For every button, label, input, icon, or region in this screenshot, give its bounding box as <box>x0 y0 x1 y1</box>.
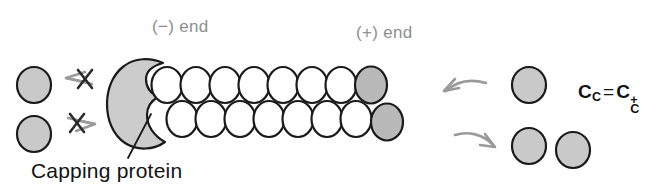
filament-top-row <box>152 67 388 104</box>
left-free-subunit-lower <box>17 116 51 152</box>
equation-rhs-base: C <box>616 81 630 102</box>
filament-subunit-top-4 <box>239 67 270 103</box>
filament-subunit-top-2 <box>181 67 212 103</box>
plus-end-association-arrow <box>444 79 486 91</box>
minus-end-dissociation-blocked-arrow <box>68 114 95 132</box>
filament-subunit-bottom-3 <box>225 101 256 137</box>
plus-end-label: (+) end <box>356 24 412 41</box>
filament-subunit-bottom-5 <box>283 101 314 137</box>
filament-bottom-row <box>167 101 404 141</box>
equation-lhs-base: C <box>578 81 592 102</box>
critical-concentration-equation: CC=C+C <box>578 82 642 101</box>
filament-subunit-top-1 <box>152 67 183 103</box>
filament-subunit-top-7 <box>326 67 357 103</box>
right-free-subunit-lower-inner <box>512 128 546 164</box>
capping-protein-label: Capping protein <box>31 160 182 181</box>
right-free-subunit-lower-outer <box>556 132 590 168</box>
equation-operator: = <box>603 81 614 102</box>
plus-end-dissociation-arrow <box>455 133 495 147</box>
filament-subunit-top-3 <box>210 67 241 103</box>
filament-subunit-top-8-tip <box>355 67 387 104</box>
left-free-subunits-group <box>17 67 51 152</box>
filament-subunit-top-5 <box>268 67 299 103</box>
minus-end-label: (−) end <box>152 18 208 35</box>
capping-protein-diagram: (−) end (+) end Capping protein CC=C+C <box>0 0 659 196</box>
filament-subunit-bottom-8-tip <box>371 104 403 141</box>
filament-subunit-bottom-2 <box>196 101 227 137</box>
filament-subunit-bottom-6 <box>312 101 343 137</box>
cross-out-icon <box>70 114 84 132</box>
filament-subunit-bottom-1 <box>167 101 198 137</box>
left-free-subunit-upper <box>17 67 51 103</box>
right-free-subunit-upper <box>512 67 546 103</box>
filament-subunit-bottom-7 <box>341 101 372 137</box>
filament-subunit-top-6 <box>297 67 328 103</box>
filament-subunit-bottom-4 <box>254 101 285 137</box>
minus-end-association-blocked-arrow <box>66 70 92 88</box>
equation-lhs-subscript: C <box>592 90 601 104</box>
